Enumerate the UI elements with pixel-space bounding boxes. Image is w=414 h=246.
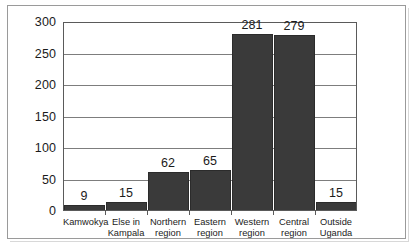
x-axis-category-label: Northern region (147, 217, 189, 238)
y-axis-tick-label: 200 (10, 79, 56, 92)
plot-border (63, 22, 357, 211)
bar-value-label: 15 (306, 187, 366, 200)
plot-area (63, 22, 357, 211)
x-axis-category-label: Western region (231, 217, 273, 238)
y-axis-tick-label: 50 (10, 173, 56, 186)
bar-value-label: 65 (180, 155, 240, 168)
x-axis-category-label: Outside Uganda (315, 217, 357, 238)
x-axis-category-label: Kamwokya (63, 217, 105, 228)
y-axis-tick-label: 0 (10, 205, 56, 218)
x-axis-tick (273, 211, 274, 215)
bar-value-label: 279 (264, 20, 324, 33)
x-axis-category-label: Eastern region (189, 217, 231, 238)
y-axis-tick-label: 300 (10, 16, 56, 29)
x-axis-tick (189, 211, 190, 215)
bar-value-label: 15 (96, 187, 156, 200)
x-axis-tick (147, 211, 148, 215)
x-axis-category-label: Else in Kampala (105, 217, 147, 238)
x-axis-tick (315, 211, 316, 215)
bar-chart-figure: 050100150200250300 KamwokyaElse in Kampa… (0, 0, 414, 246)
x-axis-category-label: Central region (273, 217, 315, 238)
y-axis-tick-label: 150 (10, 110, 56, 123)
y-axis-tick-label: 100 (10, 142, 56, 155)
x-axis-tick (105, 211, 106, 215)
x-axis-tick (231, 211, 232, 215)
y-axis-tick-label: 250 (10, 47, 56, 60)
